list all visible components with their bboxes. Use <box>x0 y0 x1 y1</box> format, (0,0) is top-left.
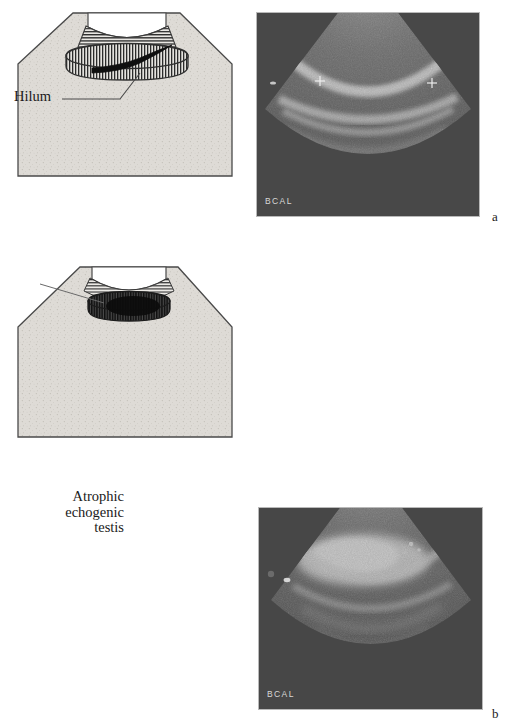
edge-dot-b <box>268 571 274 577</box>
panel-letter-a: a <box>492 209 498 225</box>
atrophic-label-line-2: echogenic <box>65 504 124 520</box>
ultrasound-image-a[interactable]: BCAL <box>256 12 480 217</box>
panel-letter-b: b <box>492 706 499 722</box>
ultrasound-image-b[interactable]: BCAL <box>258 507 483 710</box>
atrophic-testis-b <box>88 292 170 322</box>
diagram-a-svg <box>0 0 250 240</box>
atrophic-testis-label: Atrophic echogenic testis <box>18 489 124 536</box>
figure-panel-a: Hilum <box>0 0 515 240</box>
diagram-b-svg <box>0 245 250 492</box>
edge-marker-b <box>284 578 291 582</box>
atrophic-label-line-3: testis <box>94 519 124 535</box>
ultrasound-frame-a: BCAL <box>256 12 480 217</box>
schematic-diagram-a: Hilum <box>0 0 250 240</box>
testis-a <box>66 44 188 81</box>
hilum-label: Hilum <box>14 89 51 105</box>
schematic-diagram-b: Atrophic echogenic testis <box>0 245 250 492</box>
figure-panel-b: Atrophic echogenic testis <box>0 245 515 492</box>
atrophic-label-line-1: Atrophic <box>72 488 124 504</box>
edge-marker-a <box>270 81 276 84</box>
ultrasound-frame-b: BCAL <box>258 507 483 710</box>
ultrasound-b-render <box>259 508 482 709</box>
ultrasound-a-render <box>257 13 479 216</box>
